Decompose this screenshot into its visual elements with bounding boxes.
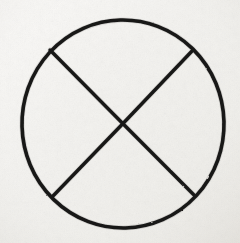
circled-saltire-drawing <box>0 0 240 243</box>
figure-root: Circled saltire Hand-drawn ink circle wi… <box>0 0 240 243</box>
